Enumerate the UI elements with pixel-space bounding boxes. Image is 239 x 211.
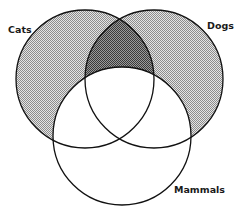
dogs-label: Dogs xyxy=(207,20,234,31)
venn-diagram: Cats Dogs Mammals xyxy=(0,0,239,211)
shaded-regions xyxy=(16,10,223,148)
cats-label: Cats xyxy=(8,24,32,35)
mammals-label: Mammals xyxy=(174,184,225,195)
